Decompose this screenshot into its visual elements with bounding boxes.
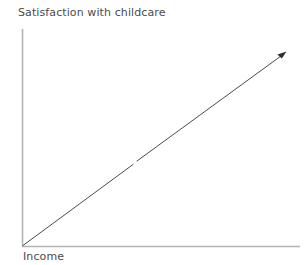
chart-figure: Satisfaction with childcare Income — [0, 0, 306, 265]
chart-canvas — [0, 0, 306, 265]
x-axis-label: Income — [23, 250, 64, 263]
trend-line-lower — [23, 165, 133, 246]
trend-line-upper — [137, 55, 283, 162]
y-axis-label: Satisfaction with childcare — [18, 6, 166, 19]
